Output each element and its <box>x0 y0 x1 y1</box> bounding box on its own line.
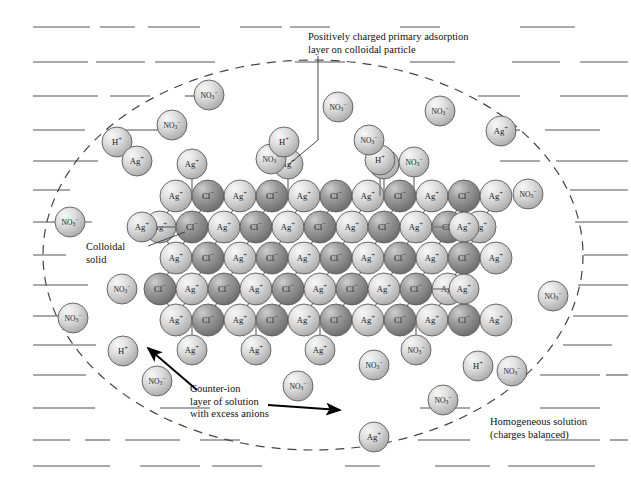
chloride-ion: Cl− <box>192 242 224 274</box>
silver-ion: Ag+ <box>486 116 516 146</box>
chloride-ion: Cl− <box>384 242 416 274</box>
colloidal-solid-label: Colloidal solid <box>86 241 125 266</box>
chloride-ion: Cl− <box>208 273 240 305</box>
silver-ion: Ag+ <box>177 335 207 365</box>
silver-ion: Ag+ <box>160 304 192 336</box>
silver-ion: Ag+ <box>400 211 432 243</box>
silver-ion: Ag+ <box>449 212 479 242</box>
chloride-ion: Cl− <box>320 304 352 336</box>
silver-ion: Ag+ <box>368 273 400 305</box>
crystal-lattice-ions: Ag+Cl−Ag+Cl−Ag+Cl−Ag+Cl−Ag+Cl−Ag+Ag+Cl−A… <box>144 180 512 336</box>
counter-ion-label: Counter-ion layer of solution with exces… <box>190 383 269 421</box>
nitrate-ion: NO3− <box>401 335 431 365</box>
nitrate-ion: NO3− <box>194 80 224 110</box>
hydrogen-ion: H+ <box>463 351 493 381</box>
silver-ion: Ag+ <box>480 304 512 336</box>
chloride-ion: Cl− <box>320 180 352 212</box>
silver-ion: Ag+ <box>240 273 272 305</box>
chloride-ion: Cl− <box>256 242 288 274</box>
silver-ion: Ag+ <box>336 211 368 243</box>
silver-ion: Ag+ <box>241 335 271 365</box>
homogeneous-solution-label: Homogeneous solution (charges balanced) <box>490 416 587 441</box>
chloride-ion: Cl− <box>240 211 272 243</box>
chloride-ion: Cl− <box>320 242 352 274</box>
nitrate-ion: NO3− <box>157 110 187 140</box>
silver-ion: Ag+ <box>449 274 479 304</box>
silver-ion: Ag+ <box>480 180 512 212</box>
nitrate-ion: NO3− <box>107 274 137 304</box>
silver-ion: Ag+ <box>359 422 389 452</box>
silver-ion: Ag+ <box>176 273 208 305</box>
chloride-ion: Cl− <box>384 180 416 212</box>
nitrate-ion: NO3− <box>283 371 313 401</box>
chloride-ion: Cl− <box>448 242 480 274</box>
chloride-ion: Cl− <box>384 304 416 336</box>
chloride-ion: Cl− <box>256 304 288 336</box>
chloride-ion: Cl− <box>272 273 304 305</box>
silver-ion: Ag+ <box>416 180 448 212</box>
silver-ion: Ag+ <box>224 304 256 336</box>
silver-ion: Ag+ <box>160 242 192 274</box>
chloride-ion: Cl− <box>400 273 432 305</box>
nitrate-ion: NO3− <box>142 366 172 396</box>
nitrate-ion: NO3− <box>359 350 389 380</box>
adsorption-layer-label: Positively charged primary adsorption la… <box>308 31 468 56</box>
silver-ion: Ag+ <box>160 180 192 212</box>
silver-ion: Ag+ <box>288 304 320 336</box>
silver-ion: Ag+ <box>288 242 320 274</box>
silver-ion: Ag+ <box>208 211 240 243</box>
nitrate-ion: NO3− <box>513 179 543 209</box>
silver-ion: Ag+ <box>352 242 384 274</box>
chloride-ion: Cl− <box>144 273 176 305</box>
colloid-diagram: Ag+Cl−Ag+Cl−Ag+Cl−Ag+Cl−Ag+Cl−Ag+Ag+Cl−A… <box>0 0 631 485</box>
silver-ion: Ag+ <box>480 242 512 274</box>
chloride-ion: Cl− <box>256 180 288 212</box>
chloride-ion: Cl− <box>304 211 336 243</box>
nitrate-ion: NO3− <box>58 303 88 333</box>
silver-ion: Ag+ <box>288 180 320 212</box>
silver-ion: Ag+ <box>177 149 207 179</box>
silver-ion: Ag+ <box>305 335 335 365</box>
nitrate-ion: NO3− <box>323 92 353 122</box>
hydrogen-ion: H+ <box>108 336 138 366</box>
silver-ion: Ag+ <box>122 146 152 176</box>
silver-ion: Ag+ <box>272 211 304 243</box>
silver-ion: Ag+ <box>352 180 384 212</box>
chloride-ion: Cl− <box>368 211 400 243</box>
silver-ion: Ag+ <box>352 304 384 336</box>
nitrate-ion: NO3− <box>497 356 527 386</box>
chloride-ion: Cl− <box>448 180 480 212</box>
nitrate-ion: NO3− <box>354 125 384 155</box>
chloride-ion: Cl− <box>336 273 368 305</box>
nitrate-ion: NO3− <box>428 385 458 415</box>
nitrate-ion: NO3− <box>538 281 568 311</box>
silver-ion: Ag+ <box>304 273 336 305</box>
nitrate-ion: NO3− <box>399 147 429 177</box>
chloride-ion: Cl− <box>176 211 208 243</box>
silver-ion: Ag+ <box>416 242 448 274</box>
chloride-ion: Cl− <box>192 304 224 336</box>
nitrate-ion: NO3− <box>55 207 85 237</box>
silver-ion: Ag+ <box>224 180 256 212</box>
nitrate-ion: NO3− <box>425 96 455 126</box>
silver-ion: Ag+ <box>224 242 256 274</box>
silver-ion: Ag+ <box>127 212 157 242</box>
hydrogen-ion: H+ <box>269 127 299 157</box>
chloride-ion: Cl− <box>448 304 480 336</box>
counter-ion-label-arrow <box>268 405 340 410</box>
chloride-ion: Cl− <box>192 180 224 212</box>
silver-ion: Ag+ <box>416 304 448 336</box>
